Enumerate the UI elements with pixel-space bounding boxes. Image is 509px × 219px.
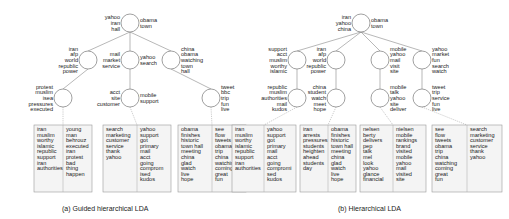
leaf-word: authorities bbox=[235, 165, 261, 171]
tree-b-topic-l2-word: hope bbox=[314, 106, 326, 112]
tree-b-topic-l2-word: deliver bbox=[390, 106, 407, 112]
tree-a-topic-l1-word: service bbox=[102, 63, 120, 69]
hlda-comparison-figure: yahooiranhallobamatowniranafpworldrepubl… bbox=[0, 0, 509, 219]
tree-edge bbox=[211, 107, 212, 125]
leaf-word: hope bbox=[181, 176, 193, 182]
leaf-word: yahoo bbox=[470, 154, 485, 160]
tree-b-topic-l2-word: live bbox=[432, 106, 440, 112]
leaf-word: site bbox=[396, 176, 405, 182]
tree-b-document-box: iranarrestspressuresstudentsheightenahea… bbox=[300, 125, 356, 192]
tree-b-root-word: china bbox=[338, 26, 352, 32]
tree-b-topic-l2-word: kudos bbox=[272, 106, 287, 112]
tree-a-topic-l1 bbox=[162, 51, 180, 69]
caption-b: (b) Hierarchical LDA bbox=[338, 205, 401, 213]
tree-b-topic-l1-word: islamic bbox=[270, 68, 287, 74]
tree-b-topic-l2 bbox=[288, 89, 306, 107]
tree-edge bbox=[130, 107, 137, 125]
caption-a: (a) Guided hierarchical LDA bbox=[62, 205, 149, 213]
tree-a-topic-l2-word: support bbox=[140, 98, 159, 104]
tree-edge bbox=[130, 32, 171, 51]
leaf-word: happen bbox=[66, 171, 85, 177]
tree-a-root-word: town bbox=[140, 23, 152, 29]
tree-b-root-word: town bbox=[371, 23, 383, 29]
tree-b-topic-l2 bbox=[371, 89, 389, 107]
tree-a-topic-l1-word: power bbox=[63, 68, 78, 74]
tree-b-document-box: seeflowtweetsobamatripchinawatchingcomin… bbox=[432, 125, 502, 192]
tree-a-root bbox=[121, 14, 139, 32]
leaf-word: hope bbox=[331, 176, 343, 182]
tree-edge bbox=[336, 32, 361, 51]
tree-b-topic-l1-word: watch bbox=[431, 68, 447, 74]
tree-b-document-box: nelsenbertydeliverspeptalkmellookyahoogl… bbox=[360, 125, 426, 192]
tree-a-document-box: iranmuslimworthyislamicrepublicsupportir… bbox=[34, 125, 92, 192]
tree-edge bbox=[88, 32, 130, 51]
leaf-word: fun bbox=[435, 176, 443, 182]
leaf-word: fun bbox=[215, 176, 223, 182]
tree-a-topic-l2-word: live bbox=[221, 106, 229, 112]
tree-edge bbox=[297, 32, 361, 51]
tree-a-topic-l1-word: search bbox=[140, 60, 157, 66]
tree-a-topic-l2 bbox=[54, 89, 72, 107]
tree-b-root bbox=[352, 14, 370, 32]
tree-a-topic-l1 bbox=[79, 51, 97, 69]
leaf-word: kudos bbox=[140, 176, 155, 182]
tree-edge bbox=[422, 107, 467, 125]
tree-b-topic-l1 bbox=[327, 51, 345, 69]
leaf-word: financial bbox=[363, 176, 384, 182]
tree-a-document-box: searchmarketingcustomerservicethankyahoo… bbox=[103, 125, 171, 192]
tree-b-topic-l1 bbox=[288, 51, 306, 69]
tree-a-topic-l2 bbox=[202, 89, 220, 107]
leaf-word: kudos bbox=[267, 176, 282, 182]
tree-a-root-word: hall bbox=[111, 26, 120, 32]
tree-a-topic-l2-word: executed bbox=[30, 106, 53, 112]
tree-edge bbox=[171, 69, 211, 89]
tree-b-document-box: iranmuslimworthyislamicrepublicsupportir… bbox=[232, 125, 296, 192]
tree-b-topic-l1 bbox=[371, 51, 389, 69]
tree-b-topic-l2 bbox=[413, 89, 431, 107]
tree-a-topic-l1 bbox=[121, 51, 139, 69]
tree-edge bbox=[328, 107, 336, 125]
tree-b-topic-l1-word: site bbox=[390, 68, 399, 74]
leaf-word: day bbox=[303, 165, 312, 171]
tree-b-topic-l1 bbox=[413, 51, 431, 69]
tree-a-topic-l2-word: customer bbox=[97, 101, 120, 107]
tree-b-topic-l1-word: power bbox=[311, 68, 326, 74]
tree-a-topic-l1-word: hall bbox=[181, 68, 190, 74]
tree-b-topic-l2 bbox=[327, 89, 345, 107]
leaf-word: authorities bbox=[37, 165, 63, 171]
tree-a-topic-l2 bbox=[121, 89, 139, 107]
leaf-word: yahoo bbox=[106, 154, 121, 160]
